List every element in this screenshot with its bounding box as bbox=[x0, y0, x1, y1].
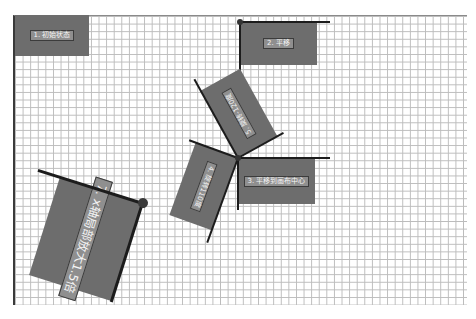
rect-step-1: 1. 初始状态 bbox=[15, 15, 89, 56]
origin-dot-icon bbox=[237, 19, 243, 25]
stage: 1. 初始状态 2. 平移 4. 旋转110度 5. 旋转-120度 3. 平移… bbox=[0, 0, 476, 319]
label-step-7: 7. x轴局部放大1.5倍 bbox=[59, 177, 114, 302]
rect-step-2: 2. 平移 bbox=[240, 22, 317, 65]
label-step-4: 4. 旋转110度 bbox=[190, 161, 218, 213]
x-axis-line bbox=[238, 157, 330, 159]
y-axis-line bbox=[237, 158, 239, 210]
label-step-3: 3. 平移到画布中心 bbox=[244, 176, 310, 187]
x-axis-line bbox=[240, 21, 330, 23]
label-step-1: 1. 初始状态 bbox=[30, 30, 75, 41]
label-step-2: 2. 平移 bbox=[263, 38, 294, 49]
label-step-5: 5. 旋转-120度 bbox=[221, 87, 257, 139]
origin-dot-icon bbox=[235, 155, 241, 161]
rect-step-3: 3. 平移到画布中心 bbox=[238, 158, 315, 204]
